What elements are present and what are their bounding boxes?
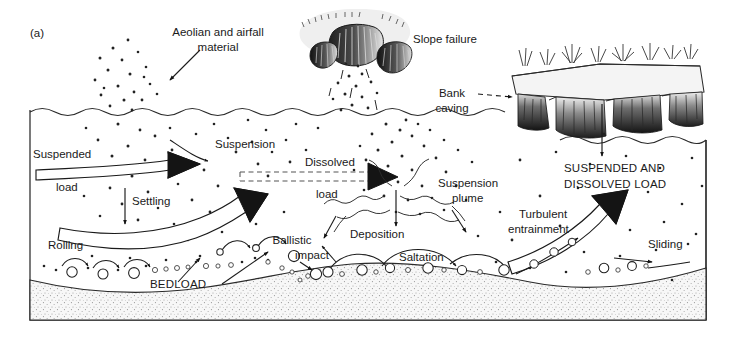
label-bank-caving-line1: Bank — [439, 87, 465, 99]
label-suspension-plume-line2: plume — [452, 192, 483, 204]
sediment-transport-diagram: (a) Aeolian and airfall material Slope f… — [0, 0, 734, 339]
label-dissolved-load-line1: Dissolved — [305, 156, 355, 168]
label-suspension-plume-line1: Suspension — [438, 177, 498, 189]
label-aeolian-line1: Aeolian and airfall — [172, 26, 263, 38]
label-panel: (a) — [30, 27, 44, 39]
label-turbulent-entrainment-line1: Turbulent — [519, 208, 568, 220]
slope-failure-feature — [300, 9, 412, 73]
label-slope-failure: Slope failure — [413, 33, 477, 45]
label-sliding: Sliding — [648, 238, 683, 250]
label-aeolian-line2: material — [198, 41, 239, 53]
label-turbulent-entrainment-line2: entrainment — [508, 223, 570, 235]
label-deposition: Deposition — [350, 228, 404, 240]
label-ballistic-line1: Ballistic — [273, 234, 312, 246]
panel-label: (a) — [30, 27, 44, 39]
label-suspended-load-line1: Suspended — [33, 148, 91, 160]
figure-container: (a) Aeolian and airfall material Slope f… — [0, 0, 734, 339]
label-rolling: Rolling — [48, 239, 83, 251]
label-settling: Settling — [132, 195, 170, 207]
label-bedload: BEDLOAD — [150, 278, 206, 290]
label-saltation: Saltation — [399, 251, 444, 263]
label-bank-caving-line2: caving — [435, 102, 468, 114]
label-dissolved-load-line2: load — [316, 188, 338, 200]
label-suspension: Suspension — [215, 138, 275, 150]
label-suspended-dissolved-line2: DISSOLVED LOAD — [564, 178, 666, 190]
label-suspended-load-line2: load — [56, 181, 78, 193]
label-ballistic-line2: impact — [295, 249, 330, 261]
label-suspended-dissolved-line1: SUSPENDED AND — [564, 162, 665, 174]
